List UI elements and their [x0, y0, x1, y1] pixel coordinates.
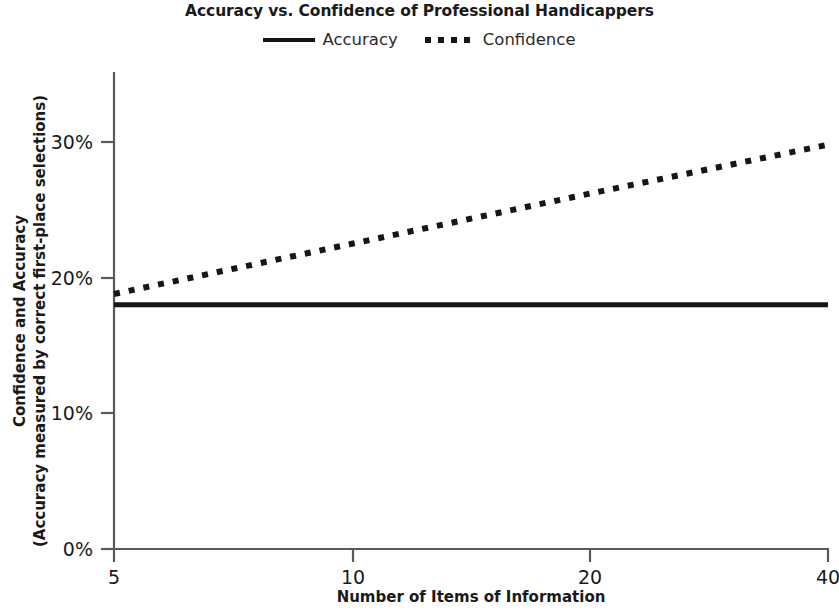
- x-tick-label: 20: [578, 566, 602, 588]
- y-tick-label: 20%: [51, 267, 93, 289]
- x-axis-ticks: [114, 549, 828, 562]
- y-axis-ticks: [101, 142, 114, 549]
- y-tick-label: 10%: [51, 402, 93, 424]
- x-tick-label: 10: [341, 566, 365, 588]
- plot-area: 30% 20% 10% 0% 5 10 20 40: [0, 0, 839, 613]
- series-line-confidence: [114, 145, 828, 294]
- x-tick-label: 5: [108, 566, 120, 588]
- x-tick-label: 40: [816, 566, 839, 588]
- y-axis-tick-labels: 30% 20% 10% 0%: [51, 131, 93, 560]
- chart-figure: Accuracy vs. Confidence of Professional …: [0, 0, 839, 613]
- y-tick-label: 30%: [51, 131, 93, 153]
- x-axis-tick-labels: 5 10 20 40: [108, 566, 839, 588]
- y-tick-label: 0%: [63, 538, 93, 560]
- x-axis-title: Number of Items of Information: [114, 588, 828, 606]
